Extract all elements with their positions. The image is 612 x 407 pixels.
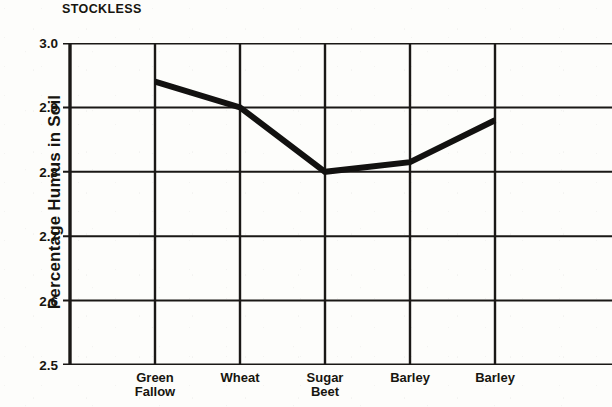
x-axis-tick-label: GreenFallow [135,371,175,399]
y-axis-tick-label: 2.9 [24,100,58,115]
y-axis-tick-label-group: 3.02.92.82.72.62.5 [24,0,58,407]
y-axis-tick-label: 2.7 [24,229,58,244]
chart-figure: STOCKLESS Percentage Humus in Soil 3.02.… [0,0,612,407]
x-axis-tick-label-line: Beet [307,385,344,399]
y-axis-tick-label: 2.6 [24,293,58,308]
y-axis-tick-label: 3.0 [24,36,58,51]
x-axis-tick-label: Wheat [221,371,260,385]
x-axis-tick-label-group: GreenFallowWheatSugarBeetBarleyBarley [0,368,612,407]
x-axis-tick-label: Barley [390,371,430,385]
x-axis-tick-label-line: Barley [475,371,515,385]
chart-title: STOCKLESS [62,2,142,16]
chart-plot-svg [63,43,612,365]
plot-area [63,43,612,365]
x-axis-tick-label-line: Wheat [221,371,260,385]
x-axis-tick-label: Barley [475,371,515,385]
y-axis-tick-label: 2.8 [24,164,58,179]
x-axis-tick-label-line: Green [135,371,175,385]
x-axis-tick-label-line: Barley [390,371,430,385]
x-axis-tick-label-line: Sugar [307,371,344,385]
vertical-gridlines [70,43,495,365]
horizontal-gridlines [63,43,612,365]
x-axis-tick-label-line: Fallow [135,385,175,399]
x-axis-tick-label: SugarBeet [307,371,344,399]
